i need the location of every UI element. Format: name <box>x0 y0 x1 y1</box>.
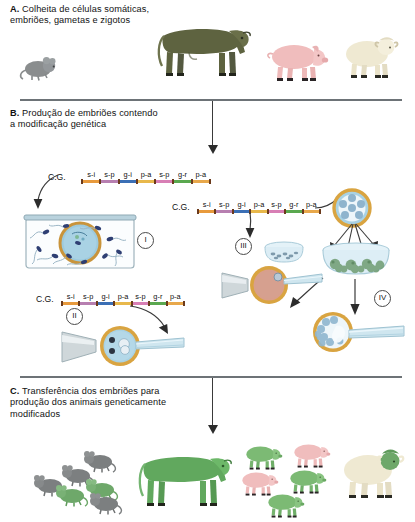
animal-pig-top <box>262 38 328 84</box>
animal-sheep-gm <box>332 442 408 504</box>
construct-segment-label: g-i <box>237 200 245 209</box>
construct-tick <box>284 209 286 214</box>
construct-tick <box>96 301 98 306</box>
section-c-text: C. Transferência dos embriões para produ… <box>10 386 170 420</box>
construct-tick <box>81 179 83 184</box>
construct-tick <box>154 179 156 184</box>
section-a-letter: A. <box>10 4 19 14</box>
construct-segment-label: p-a <box>118 292 129 301</box>
construct-tick <box>267 209 269 214</box>
animal-cow-gm <box>126 440 236 518</box>
construct-segment-label: p-a <box>196 170 207 179</box>
divider-a-b <box>20 99 402 101</box>
construct-ticks <box>82 179 210 184</box>
construct-bar <box>82 180 210 183</box>
construct-segment-label: g-i <box>124 170 132 179</box>
animal-cow-top <box>145 14 255 84</box>
construct-segment-label: p-a <box>141 170 152 179</box>
construct-segment-label: p-a <box>254 200 265 209</box>
construct-segment-label: p-a <box>170 292 181 301</box>
arrow-b-to-c <box>212 378 213 426</box>
section-a-body: Colheita de células somáticas, embriões,… <box>10 4 149 25</box>
construct-tick <box>214 209 216 214</box>
construct-tick <box>99 179 101 184</box>
step-3-illustration <box>222 258 326 306</box>
section-b-letter: B. <box>10 108 19 118</box>
section-b-text: B. Produção de embriões contendo a modif… <box>10 108 160 131</box>
step-1-illustration <box>22 212 142 274</box>
construct-tick <box>183 301 185 306</box>
construct-tick <box>78 301 80 306</box>
construct-segment-label: s-p <box>104 170 114 179</box>
arrow-a-to-b <box>212 101 213 146</box>
construct-segment-label: s-p <box>159 170 169 179</box>
construct-segment-label: g-r <box>289 200 298 209</box>
step-1-numeral: I <box>137 232 154 249</box>
section-a-text: A. Colheita de células somáticas, embriõ… <box>10 4 160 27</box>
step-4-numeral: IV <box>374 290 391 307</box>
arrow-cg2-to-step3 <box>238 211 260 241</box>
construct-tick <box>172 179 174 184</box>
construct-tick <box>118 179 120 184</box>
construct-segment-label: g-r <box>153 292 162 301</box>
construct-segment-label: g-r <box>178 170 187 179</box>
construct-tick <box>232 209 234 214</box>
section-b-body: Produção de embriões contendo a modifica… <box>10 108 158 129</box>
gene-construct-1: s-is-pg-ip-as-pg-rp-a <box>82 170 210 183</box>
step-3-numeral: III <box>235 238 252 255</box>
construct-segment-label: s-p <box>219 200 229 209</box>
construct-segment-label: s-i <box>203 200 211 209</box>
step-2-illustration <box>62 320 186 370</box>
construct-segment-label: s-p <box>135 292 145 301</box>
construct-segment-label: g-i <box>101 292 109 301</box>
animal-mouse-top <box>18 52 64 82</box>
construct-tick <box>191 179 193 184</box>
construct-tick <box>197 209 199 214</box>
construct-tick <box>136 179 138 184</box>
construct-tick <box>113 301 115 306</box>
section-c-body: Transferência dos embriões para produção… <box>10 386 166 419</box>
figure-canvas: A. Colheita de células somáticas, embriõ… <box>0 0 415 522</box>
construct-segment-label: s-p <box>83 292 93 301</box>
construct-tick <box>209 179 211 184</box>
construct-segment-label: s-p <box>271 200 281 209</box>
colony-culture-dish <box>318 242 394 282</box>
divider-b-c <box>20 376 402 378</box>
construct-segment-label: s-i <box>67 292 75 301</box>
construct-segment-label: s-i <box>87 170 95 179</box>
animal-sheep-top <box>335 30 401 82</box>
construct-tick <box>61 301 63 306</box>
construct-2-label: C.G. <box>172 202 190 212</box>
arrow-cg1-to-step1 <box>28 172 62 212</box>
construct-3-label: C.G. <box>36 294 54 304</box>
construct-tick <box>302 209 304 214</box>
step-4-illustration <box>300 308 410 356</box>
section-c-letter: C. <box>10 386 19 396</box>
